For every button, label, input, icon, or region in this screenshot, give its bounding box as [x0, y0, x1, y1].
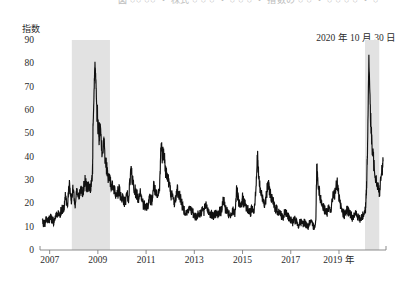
recession-bands	[72, 40, 379, 250]
y-axis-unit-label: 指数	[22, 22, 40, 35]
series-canvas	[40, 40, 386, 250]
y-axis-tick-label: 60	[12, 105, 34, 115]
x-axis-tick-label: 2019 年	[317, 255, 361, 266]
figure-caption-text: 図 ○○ ○○ ・ 株式 ○ ○ ○ ・ ○ ○ ○ ・ 指数の ○ ○ ・ ○…	[118, 0, 379, 6]
x-axis-tick-label: 2011	[124, 255, 168, 266]
y-axis-tick-label: 80	[12, 58, 34, 68]
y-axis-tick-label: 70	[12, 82, 34, 92]
x-axis-tick-label: 2013	[172, 255, 216, 266]
x-axis-tick-label: 2009	[76, 255, 120, 266]
y-axis-tick-label: 50	[12, 128, 34, 138]
y-axis-tick-label: 40	[12, 152, 34, 162]
x-axis-tick-label: 2007	[28, 255, 72, 266]
y-axis-tick-label: 30	[12, 175, 34, 185]
y-axis-tick-label: 90	[12, 35, 34, 45]
y-axis-tick-label: 20	[12, 198, 34, 208]
plot-area	[40, 40, 386, 250]
x-axis-tick-label: 2017	[269, 255, 313, 266]
y-axis-tick-label: 10	[12, 222, 34, 232]
x-axis-tick-label: 2015	[221, 255, 265, 266]
chart-figure: 図 ○○ ○○ ・ 株式 ○ ○ ○ ・ ○ ○ ○ ・ 指数の ○ ○ ・ ○…	[0, 0, 404, 291]
figure-caption-strip: 図 ○○ ○○ ・ 株式 ○ ○ ○ ・ ○ ○ ○ ・ 指数の ○ ○ ・ ○…	[0, 0, 404, 10]
y-axis-tick-label: 0	[12, 245, 34, 255]
